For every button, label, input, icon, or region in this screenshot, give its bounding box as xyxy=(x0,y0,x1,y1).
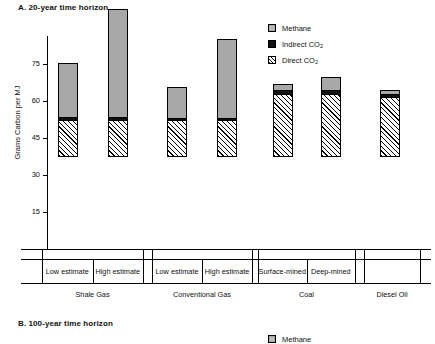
category-group-separator xyxy=(152,249,153,283)
category-group-separator xyxy=(364,249,365,283)
legend-panel-b: Methane xyxy=(268,334,311,344)
category-separator xyxy=(202,260,203,283)
bar xyxy=(58,63,78,157)
category-axis: Low estimateHigh estimateShale GasLow es… xyxy=(21,249,431,303)
bar-segment-direct-co2 xyxy=(380,97,400,157)
category-group-separator xyxy=(355,249,356,283)
category-sublabel: Low estimate xyxy=(42,261,93,281)
category-group-separator xyxy=(252,249,253,283)
bar-segment-methane xyxy=(321,77,341,91)
bar xyxy=(273,84,293,157)
bar-segment-direct-co2 xyxy=(217,120,237,157)
bar-segment-direct-co2 xyxy=(167,120,187,157)
category-sublabel: Deep-mined xyxy=(307,261,356,281)
category-group-separator xyxy=(420,249,421,283)
bar xyxy=(380,90,400,157)
category-group-label: Coal xyxy=(258,285,355,303)
bar-segment-direct-co2 xyxy=(321,94,341,157)
category-separator xyxy=(93,260,94,283)
bar xyxy=(108,9,128,157)
panel-b-title: B. 100-year time horizon xyxy=(18,319,113,328)
bar-segment-methane xyxy=(167,87,187,118)
category-sublabel: Low estimate xyxy=(152,261,202,281)
bar xyxy=(217,39,237,157)
bar-segment-direct-co2 xyxy=(273,94,293,157)
category-group-separator xyxy=(42,249,43,283)
category-sublabel: Surface-mined xyxy=(258,261,307,281)
legend-item-methane-b: Methane xyxy=(268,334,311,344)
category-row-divider-top xyxy=(21,259,431,260)
category-group-separator xyxy=(258,249,259,283)
category-sublabel: High estimate xyxy=(93,261,144,281)
bar xyxy=(321,77,341,157)
category-sublabel: High estimate xyxy=(202,261,252,281)
bar-segment-direct-co2 xyxy=(108,120,128,157)
bar-segment-methane xyxy=(217,39,237,118)
category-row-divider-bottom xyxy=(21,283,431,284)
bar-segment-direct-co2 xyxy=(58,120,78,157)
plot-area xyxy=(0,0,435,250)
bar-segment-methane xyxy=(58,63,78,117)
bar xyxy=(167,87,187,157)
category-group-separator xyxy=(143,249,144,283)
category-group-label: Shale Gas xyxy=(42,285,143,303)
category-separator xyxy=(307,260,308,283)
bar-segment-methane xyxy=(108,9,128,117)
methane-swatch-icon xyxy=(268,335,276,343)
legend-label-methane-b: Methane xyxy=(282,335,311,344)
category-group-label: Conventional Gas xyxy=(152,285,252,303)
category-group-label: Diesel Oil xyxy=(364,285,420,303)
